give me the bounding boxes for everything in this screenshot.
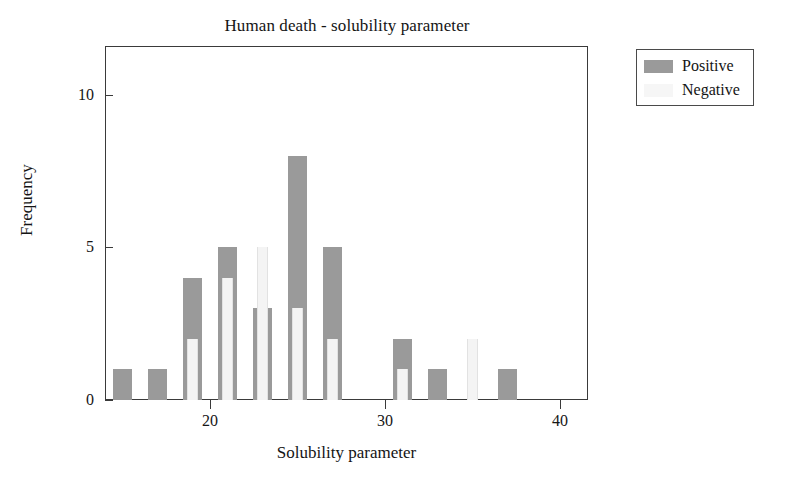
bar-group (463, 46, 482, 400)
y-axis-tick-label: 5 (86, 238, 94, 256)
x-axis-tick-mark (210, 400, 211, 409)
bar-group (288, 46, 307, 400)
x-axis-tick-mark (560, 400, 561, 409)
bar-group (393, 46, 412, 400)
bar-group (323, 46, 342, 400)
bar-group (113, 46, 132, 400)
x-axis-tick-label: 20 (180, 412, 240, 430)
x-axis-tick-label: 40 (530, 412, 590, 430)
bar-negative (222, 278, 233, 400)
chart-figure: Human death - solubility parameter 0510 … (0, 0, 811, 491)
chart-title: Human death - solubility parameter (105, 16, 589, 36)
bar-positive (148, 369, 167, 400)
bar-group (253, 46, 272, 400)
bar-negative (187, 339, 198, 400)
bar-positive (428, 369, 447, 400)
legend-swatch-positive-icon (644, 60, 673, 73)
x-axis-tick-label: 30 (355, 412, 415, 430)
x-axis-tick-mark (385, 400, 386, 409)
bar-group (428, 46, 447, 400)
chart-legend: PositiveNegative (636, 49, 754, 106)
bar-negative (397, 369, 408, 400)
legend-label: Negative (682, 82, 740, 98)
y-axis-tick-label: 0 (86, 391, 94, 409)
bar-positive (498, 369, 517, 400)
y-axis-tick-mark (105, 247, 113, 248)
y-axis-tick-label: 10 (78, 86, 94, 104)
bar-group (498, 46, 517, 400)
bar-negative (327, 339, 338, 400)
legend-item-positive: Positive (644, 54, 734, 78)
bar-group (183, 46, 202, 400)
y-axis-tick-mark (105, 400, 113, 401)
x-axis-label: Solubility parameter (105, 443, 588, 463)
legend-label: Positive (682, 58, 734, 74)
bar-group (218, 46, 237, 400)
y-axis-tick-mark (105, 95, 113, 96)
legend-item-negative: Negative (644, 78, 740, 102)
bar-group (148, 46, 167, 400)
bar-negative (292, 308, 303, 400)
y-axis-tick-labels: 0510 (60, 46, 94, 400)
plot-area (105, 46, 588, 400)
bar-positive (113, 369, 132, 400)
bar-negative (467, 339, 478, 400)
bar-negative (257, 247, 268, 400)
legend-swatch-negative-icon (644, 84, 673, 97)
y-axis-label: Frequency (17, 100, 37, 300)
